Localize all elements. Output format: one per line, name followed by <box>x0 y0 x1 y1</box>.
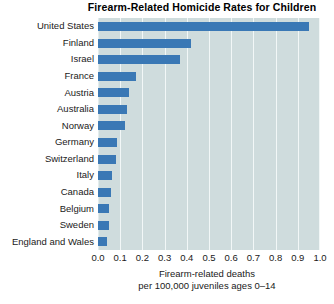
y-axis-label: Australia <box>0 103 94 114</box>
bar-row <box>98 18 320 35</box>
x-axis-tick-label: 0.3 <box>158 252 171 263</box>
x-axis-caption: Firearm-related deaths per 100,000 juven… <box>80 268 334 292</box>
chart-title: Firearm-Related Homicide Rates for Child… <box>70 1 334 13</box>
x-axis-caption-line-1: Firearm-related deaths <box>80 268 334 280</box>
x-axis-tick-label: 0.1 <box>114 252 127 263</box>
bar <box>98 121 125 130</box>
bar-row <box>98 35 320 52</box>
x-axis-tick-label: 0.2 <box>136 252 149 263</box>
bar <box>98 72 136 81</box>
bar <box>98 39 191 48</box>
x-axis-tick-label: 0.6 <box>225 252 238 263</box>
bar-row <box>98 151 320 168</box>
bar <box>98 22 309 31</box>
x-axis-tick-label: 0.8 <box>269 252 282 263</box>
x-axis-tick-label: 0.5 <box>202 252 215 263</box>
y-axis-label: Sweden <box>0 219 94 230</box>
bar <box>98 237 107 246</box>
y-axis-label: Norway <box>0 120 94 131</box>
bar <box>98 204 109 213</box>
bar-row <box>98 68 320 85</box>
y-axis-label: Belgium <box>0 203 94 214</box>
bar-row <box>98 134 320 151</box>
bar <box>98 221 109 230</box>
bar <box>98 171 112 180</box>
plot-area <box>98 18 320 250</box>
x-axis-tick-label: 0.7 <box>247 252 260 263</box>
bar-row <box>98 51 320 68</box>
y-axis-label: Switzerland <box>0 153 94 164</box>
bar-row <box>98 84 320 101</box>
bar <box>98 105 127 114</box>
x-axis-tick-label: 1.0 <box>313 252 326 263</box>
y-axis-label: Germany <box>0 136 94 147</box>
x-axis-tick-label: 0.0 <box>91 252 104 263</box>
x-axis-tick-label: 0.9 <box>291 252 304 263</box>
x-axis-caption-line-2: per 100,000 juveniles ages 0–14 <box>80 280 334 292</box>
bar <box>98 55 180 64</box>
bar <box>98 188 111 197</box>
bar <box>98 138 117 147</box>
bar <box>98 88 129 97</box>
y-axis-label: Finland <box>0 37 94 48</box>
bar-row <box>98 167 320 184</box>
bar <box>98 155 116 164</box>
bar-row <box>98 200 320 217</box>
bar-row <box>98 217 320 234</box>
bar-row <box>98 101 320 118</box>
y-axis-label: Austria <box>0 87 94 98</box>
bar-row <box>98 233 320 250</box>
bar-chart: Firearm-Related Homicide Rates for Child… <box>0 0 334 304</box>
x-axis-tick-labels: 0.00.10.20.30.40.50.60.70.80.91.0 <box>98 250 320 266</box>
y-axis-category-labels: United StatesFinlandIsraelFranceAustriaA… <box>0 18 94 250</box>
y-axis-label: Italy <box>0 169 94 180</box>
y-axis-label: United States <box>0 20 94 31</box>
y-axis-label: France <box>0 70 94 81</box>
x-axis-tick-label: 0.4 <box>180 252 193 263</box>
y-axis-label: Israel <box>0 53 94 64</box>
bar-row <box>98 184 320 201</box>
bar-row <box>98 117 320 134</box>
y-axis-label: Canada <box>0 186 94 197</box>
y-axis-label: England and Wales <box>0 236 94 247</box>
